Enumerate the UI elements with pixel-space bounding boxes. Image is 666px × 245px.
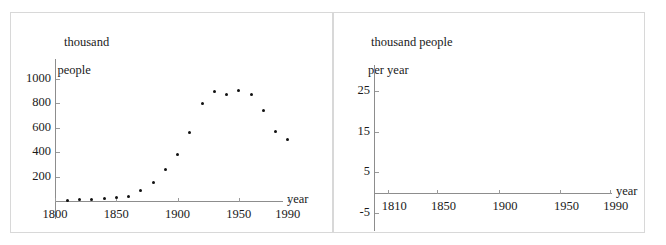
x-tickmark [388, 190, 389, 194]
y-axis-title-population: thousand people [39, 21, 109, 105]
x-axis-name-population: year [287, 192, 309, 207]
y-tick-label: 25 [330, 83, 370, 98]
data-point [201, 102, 204, 105]
data-point [225, 93, 228, 96]
data-point [286, 138, 289, 141]
x-tickmark [437, 190, 438, 194]
data-point [127, 195, 130, 198]
y-tickmark [375, 91, 379, 92]
y-axis-title-line2: per year [346, 63, 453, 77]
x-tickmark [610, 190, 611, 194]
y-axis-line [55, 59, 56, 219]
y-tick-label: 5 [330, 164, 370, 179]
y-tick-label: -5 [330, 205, 370, 220]
x-tickmark [499, 190, 500, 194]
y-tickmark [375, 132, 379, 133]
plot-area-population: thousand people year 2004006008001000180… [11, 13, 332, 232]
x-tick-label: 1950 [542, 199, 590, 214]
data-point [237, 89, 240, 92]
y-axis-title-line1: thousand people [371, 35, 453, 49]
chart-panel-growth-rate: thousand people per year year -551525181… [333, 12, 645, 233]
data-point [115, 196, 118, 199]
y-tickmark [56, 128, 60, 129]
data-point [139, 189, 142, 192]
x-tick-label: 1900 [154, 207, 202, 222]
y-tickmark [56, 152, 60, 153]
chart-panel-population: thousand people year 2004006008001000180… [10, 12, 333, 233]
plot-area-growth-rate: thousand people per year year -551525181… [334, 13, 644, 232]
data-point [262, 109, 265, 112]
y-tick-label: 200 [11, 169, 51, 184]
y-tickmark [56, 79, 60, 80]
x-axis-name-growth-rate: year [616, 184, 638, 199]
y-tick-label: 1000 [11, 71, 51, 86]
figure-root: thousand people year 2004006008001000180… [0, 0, 666, 245]
x-tick-label: 1800 [31, 207, 79, 222]
data-point [103, 197, 106, 200]
y-axis-title-line1: thousand [64, 35, 109, 49]
data-point [274, 130, 277, 133]
data-point [188, 131, 191, 134]
x-tick-label: 1990 [592, 199, 640, 214]
y-tickmark [375, 172, 379, 173]
y-tick-label: 600 [11, 120, 51, 135]
y-tick-label: 15 [330, 124, 370, 139]
y-tickmark [56, 103, 60, 104]
data-point [176, 153, 179, 156]
data-point [66, 199, 69, 202]
x-axis-line [55, 201, 283, 202]
x-tick-label: 1900 [481, 199, 529, 214]
x-axis-line [374, 193, 612, 194]
x-tick-label: 1850 [92, 207, 140, 222]
x-tickmark [560, 190, 561, 194]
x-tick-label: 1950 [215, 207, 263, 222]
x-tick-label: 1850 [419, 199, 467, 214]
data-point [250, 93, 253, 96]
x-tickmark [178, 198, 179, 202]
y-tick-label: 400 [11, 144, 51, 159]
data-point [164, 168, 167, 171]
data-point [90, 198, 93, 201]
y-tick-label: 800 [11, 95, 51, 110]
data-point [152, 181, 155, 184]
y-tickmark [56, 177, 60, 178]
x-tick-label: 1990 [264, 207, 312, 222]
x-tick-label: 1810 [370, 199, 418, 214]
x-tickmark [288, 198, 289, 202]
x-tickmark [55, 198, 56, 202]
data-point [213, 90, 216, 93]
x-tickmark [239, 198, 240, 202]
